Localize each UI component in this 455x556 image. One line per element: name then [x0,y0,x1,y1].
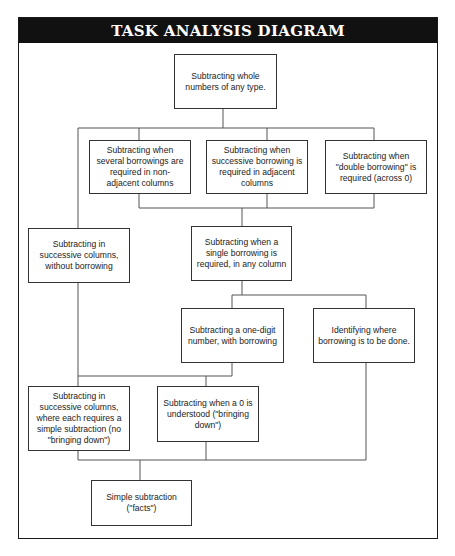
node-simple-facts: Simple subtraction ("facts") [91,480,192,526]
node-root-label: Subtracting whole numbers of any type. [179,71,272,93]
node-successive-simple-label: Subtracting in successive columns, where… [33,391,125,446]
node-double-borrowing-label: Subtracting when "double borrowing" is r… [330,151,422,184]
node-identify-borrow-label: Identifying where borrowing is to be don… [318,325,410,347]
node-simple-facts-label: Simple subtraction ("facts") [96,492,187,514]
node-successive-no-borrow-label: Subtracting in successive columns, witho… [33,239,125,272]
node-single-borrowing-label: Subtracting when a single borrowing is r… [196,237,287,270]
node-several-borrowings: Subtracting when several borrowings are … [89,140,191,194]
node-zero-understood: Subtracting when a 0 is understood ("bri… [157,386,259,442]
node-successive-borrowing: Subtracting when successive borrowing is… [206,140,308,194]
node-successive-simple: Subtracting in successive columns, where… [28,386,130,451]
node-one-digit-borrow-label: Subtracting a one-digit number, with bor… [186,325,279,347]
node-one-digit-borrow: Subtracting a one-digit number, with bor… [181,308,284,363]
diagram-title: TASK ANALYSIS DIAGRAM [19,18,437,43]
node-zero-understood-label: Subtracting when a 0 is understood ("bri… [162,398,254,431]
node-several-borrowings-label: Subtracting when several borrowings are … [94,145,186,189]
node-identify-borrow: Identifying where borrowing is to be don… [313,308,415,363]
node-single-borrowing: Subtracting when a single borrowing is r… [191,226,292,281]
node-successive-borrowing-label: Subtracting when successive borrowing is… [211,145,303,189]
node-double-borrowing: Subtracting when "double borrowing" is r… [325,140,427,194]
node-successive-no-borrow: Subtracting in successive columns, witho… [28,228,130,283]
node-root: Subtracting whole numbers of any type. [174,54,277,109]
